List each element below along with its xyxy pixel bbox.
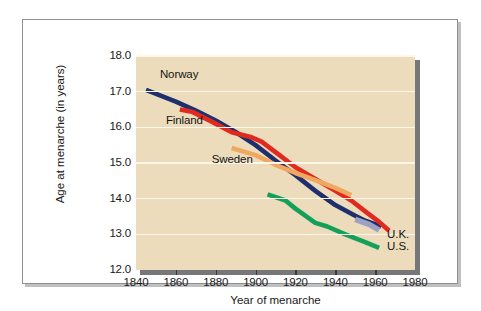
y-tick-label-12.0: 12.0	[89, 263, 131, 275]
plot-area: NorwayFinlandSwedenU.K.U.S.	[136, 56, 415, 270]
y-tick-label-18.0: 18.0	[89, 49, 131, 61]
x-tick-label-1980: 1980	[392, 276, 438, 288]
series-label-sweden: Sweden	[212, 153, 253, 165]
y-axis-tick-labels: 12.013.014.015.016.017.018.0	[85, 56, 131, 270]
gridline-y-15.0	[136, 162, 415, 164]
x-tick-mark-1960	[375, 270, 377, 275]
gridline-y-13.0	[136, 234, 415, 236]
series-label-us: U.S.	[387, 240, 409, 252]
y-tick-label-16.0: 16.0	[89, 120, 131, 132]
plot-shadow-right	[415, 60, 420, 274]
x-tick-mark-1900	[256, 270, 258, 275]
x-tick-mark-1860	[176, 270, 178, 275]
series-label-finland: Finland	[166, 114, 203, 126]
y-tick-label-13.0: 13.0	[89, 227, 131, 239]
series-label-uk: U.K.	[387, 228, 409, 240]
y-axis-title: Age at menarche (in years)	[54, 34, 66, 234]
gridline-y-16.0	[136, 127, 415, 129]
x-tick-mark-1920	[295, 270, 297, 275]
x-axis-title: Year of menarche	[136, 294, 415, 306]
gridline-y-17.0	[136, 91, 415, 93]
y-tick-label-15.0: 15.0	[89, 156, 131, 168]
y-tick-label-14.0: 14.0	[89, 192, 131, 204]
gridline-y-14.0	[136, 198, 415, 200]
x-tick-mark-1880	[216, 270, 218, 275]
chart-figure-frame: NorwayFinlandSwedenU.K.U.S. 12.013.014.0…	[22, 19, 458, 284]
gridline-y-18.0	[136, 55, 415, 57]
x-tick-mark-1940	[335, 270, 337, 275]
series-label-norway: Norway	[160, 68, 198, 80]
y-tick-label-17.0: 17.0	[89, 85, 131, 97]
plot-shadow-bottom	[140, 270, 420, 275]
x-axis-tick-labels: 18401860188019001920194019601980	[136, 276, 415, 294]
